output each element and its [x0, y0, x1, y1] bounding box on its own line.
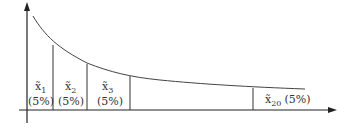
y-axis-arrow-icon [24, 2, 30, 11]
segment-2-var: x̃2 [65, 80, 76, 95]
segment-2-pct: (5%) [58, 95, 84, 108]
density-curve [33, 16, 305, 89]
segment-1-pct: (5%) [28, 95, 54, 108]
x-axis-arrow-icon [328, 107, 337, 113]
segment-20-label: x̃20(5%) [265, 93, 310, 108]
partition-diagram: x̃1 (5%) x̃2 (5%) x̃3 (5%) x̃20(5%) [0, 0, 353, 129]
segment-3-var: x̃3 [102, 80, 113, 95]
segment-1-var: x̃1 [35, 80, 46, 95]
segment-3-pct: (5%) [97, 95, 123, 108]
